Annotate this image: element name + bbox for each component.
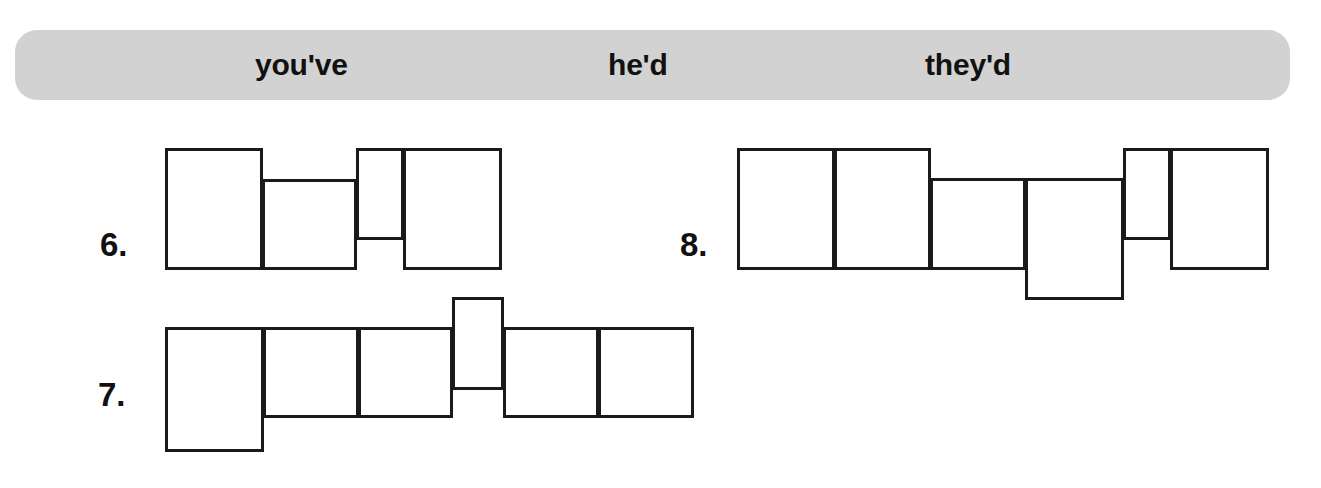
letter-box-2-3[interactable]	[358, 327, 453, 418]
letter-box-1-4[interactable]	[403, 148, 502, 270]
letter-box-2-2[interactable]	[263, 327, 359, 418]
item-number-1: 6.	[100, 228, 128, 261]
letter-box-3-2[interactable]	[834, 148, 931, 270]
letter-box-3-4[interactable]	[1025, 178, 1124, 300]
letter-box-3-5[interactable]	[1123, 148, 1171, 240]
word-bank: you'vehe'dthey'd	[15, 30, 1290, 100]
letter-box-1-2[interactable]	[262, 179, 357, 270]
worksheet-page: you'vehe'dthey'd 6.7.8.	[0, 0, 1321, 488]
item-number-2: 7.	[98, 378, 126, 411]
word-bank-word-1[interactable]: you've	[255, 48, 348, 82]
letter-box-3-6[interactable]	[1170, 148, 1269, 270]
letter-box-3-3[interactable]	[930, 178, 1026, 270]
item-number-3: 8.	[680, 228, 708, 261]
letter-box-2-1[interactable]	[165, 327, 264, 452]
letter-box-2-5[interactable]	[503, 327, 599, 418]
letter-box-1-1[interactable]	[165, 148, 263, 270]
letter-box-2-4[interactable]	[452, 297, 504, 390]
letter-box-3-1[interactable]	[737, 148, 835, 270]
letter-box-2-6[interactable]	[598, 327, 694, 418]
word-bank-word-2[interactable]: he'd	[608, 48, 668, 82]
word-bank-word-3[interactable]: they'd	[925, 48, 1011, 82]
letter-box-1-3[interactable]	[356, 148, 404, 240]
